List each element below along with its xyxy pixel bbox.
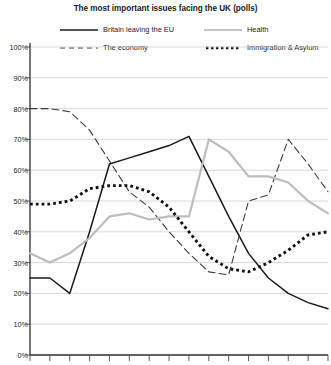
plot-area: 0%10%20%30%40%50%60%70%80%90%100% xyxy=(0,0,331,365)
plot-svg xyxy=(0,0,331,365)
series-line xyxy=(30,136,328,308)
series-lines xyxy=(30,109,328,309)
series-line xyxy=(30,186,328,272)
chart-container: The most important issues facing the UK … xyxy=(0,0,331,365)
axes xyxy=(30,43,328,355)
x-axis-ticks xyxy=(30,355,328,361)
